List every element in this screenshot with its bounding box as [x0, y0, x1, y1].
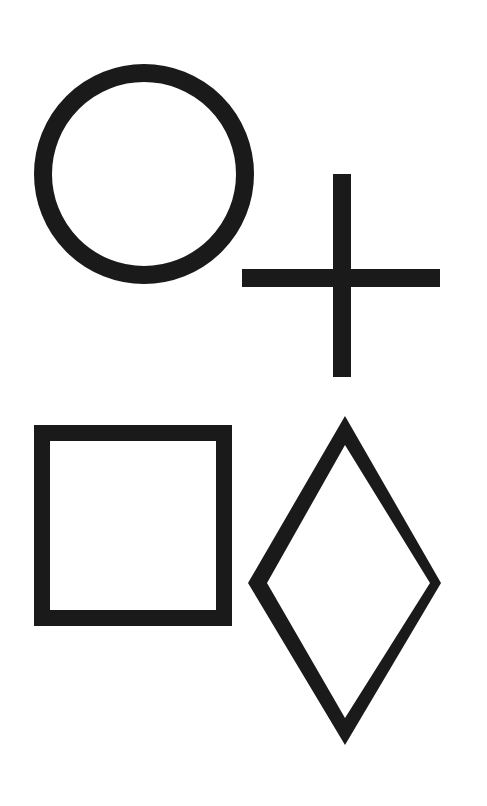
square-shape: [42, 433, 224, 618]
diamond-shape: [248, 416, 441, 745]
cross-shape: [242, 174, 440, 377]
shapes-figure: [0, 0, 487, 806]
circle-shape: [43, 73, 245, 275]
